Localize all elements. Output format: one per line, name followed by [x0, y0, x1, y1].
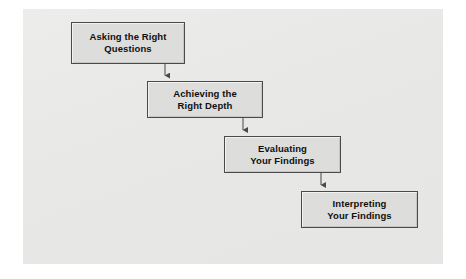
flow-step-label: Evaluating Your Findings [246, 143, 318, 167]
flow-step-asking-the-right-questions: Asking the Right Questions [71, 22, 185, 64]
flow-step-interpreting-your-findings: Interpreting Your Findings [301, 191, 418, 228]
flow-step-evaluating-your-findings: Evaluating Your Findings [224, 136, 341, 173]
figure-root: Asking the Right Questions Achieving the… [0, 0, 466, 279]
flow-step-label: Asking the Right Questions [85, 31, 170, 55]
flow-step-label: Achieving the Right Depth [169, 88, 241, 112]
flow-step-achieving-the-right-depth: Achieving the Right Depth [147, 81, 263, 118]
flow-step-label: Interpreting Your Findings [323, 198, 395, 222]
